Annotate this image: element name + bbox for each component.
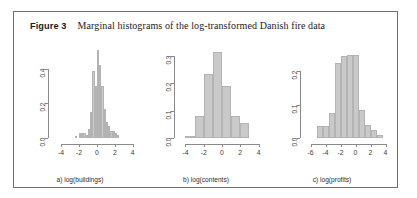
histogram-bar (204, 74, 213, 138)
x-axis-label: -2 (72, 149, 86, 156)
x-axis-label: 2 (233, 149, 247, 156)
x-axis-label: 4 (126, 149, 140, 156)
histogram-bar (240, 123, 249, 138)
histogram-bar (231, 116, 240, 138)
x-axis-tick (311, 144, 312, 147)
y-axis-label: 0.1 (165, 110, 172, 142)
histogram-bar (185, 136, 194, 138)
histogram-panel-c: 0.00.10.2-6-4-2024 c) log(profits) (268, 42, 396, 187)
x-axis-tick (115, 144, 116, 147)
histogram-bar (195, 116, 204, 138)
y-axis-line (174, 56, 175, 138)
x-axis-tick (222, 144, 223, 147)
x-axis-label: 4 (379, 149, 393, 156)
y-axis-label: 0.3 (165, 56, 172, 88)
figure-caption: Figure 3Marginal histograms of the log-t… (30, 20, 325, 31)
x-axis-tick (371, 144, 372, 147)
x-axis-label: 0 (90, 149, 104, 156)
x-axis-label: 4 (252, 149, 266, 156)
histogram-bar (75, 136, 77, 138)
x-axis-tick (341, 144, 342, 147)
y-axis-label: 0.1 (291, 104, 298, 136)
y-axis-label: 0.0 (39, 138, 46, 170)
x-axis-tick (61, 144, 62, 147)
x-axis-label: -2 (197, 149, 211, 156)
plot-area-c: 0.00.10.2-6-4-2024 (268, 42, 396, 162)
panel-caption-a: a) log(buildings) (16, 176, 144, 183)
x-axis-label: -4 (54, 149, 68, 156)
x-axis-label: 2 (364, 149, 378, 156)
x-axis-tick (185, 144, 186, 147)
x-axis-tick (97, 144, 98, 147)
y-axis-line (300, 71, 301, 138)
figure-number: Figure 3 (30, 21, 67, 31)
x-axis-label: -6 (304, 149, 318, 156)
x-axis-tick (356, 144, 357, 147)
x-axis-label: -4 (178, 149, 192, 156)
figure-title: Marginal histograms of the log-transform… (78, 20, 326, 31)
x-axis-tick (240, 144, 241, 147)
histogram-panels: 0.00.20.4-4-2024 a) log(buildings) 0.00.… (14, 42, 397, 187)
panel-caption-c: c) log(profits) (268, 176, 396, 183)
x-axis-label: 2 (108, 149, 122, 156)
panel-caption-b: b) log(contents) (142, 176, 270, 183)
x-axis-label: -2 (334, 149, 348, 156)
x-axis-tick (326, 144, 327, 147)
y-axis-label: 0.2 (165, 83, 172, 115)
histogram-bar (117, 135, 119, 138)
histogram-panel-b: 0.00.10.20.3-4-2024 b) log(contents) (142, 42, 270, 187)
x-axis-tick (386, 144, 387, 147)
y-axis-label: 0.2 (291, 71, 298, 103)
figure-frame: Figure 3Marginal histograms of the log-t… (13, 11, 398, 188)
x-axis-label: 0 (349, 149, 363, 156)
histogram-bar (222, 86, 231, 138)
x-axis-tick (133, 144, 134, 147)
plot-area-b: 0.00.10.20.3-4-2024 (142, 42, 270, 162)
y-axis-label: 0.2 (39, 103, 46, 135)
x-axis-label: -4 (319, 149, 333, 156)
y-axis-line (48, 69, 49, 138)
histogram-bar (213, 52, 222, 138)
histogram-panel-a: 0.00.20.4-4-2024 a) log(buildings) (16, 42, 144, 187)
y-axis-label: 0.0 (291, 138, 298, 170)
x-axis-tick (79, 144, 80, 147)
y-axis-label: 0.4 (39, 68, 46, 100)
x-axis-label: 0 (215, 149, 229, 156)
x-axis-tick (204, 144, 205, 147)
x-axis-line (311, 144, 386, 145)
histogram-bar (377, 135, 383, 138)
x-axis-tick (259, 144, 260, 147)
plot-area-a: 0.00.20.4-4-2024 (16, 42, 144, 162)
